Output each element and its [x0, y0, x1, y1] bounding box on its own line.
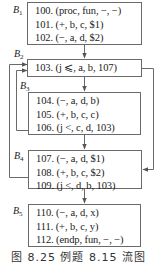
block-label-index: 1 — [19, 9, 23, 17]
quadruple-104: 104. (−, a, d, b) — [36, 94, 140, 108]
basic-block-b2: 103. (j ⩽, a, b, 107) — [27, 59, 142, 77]
block-label-index: 2 — [20, 53, 24, 61]
quadruple-106: 106. (j <, c, d, 103) — [36, 121, 140, 135]
quadruple-100: 100. (proc, fun, −, −) — [35, 4, 141, 18]
quadruple-108: 108. (+, b, c, $2) — [36, 166, 141, 180]
basic-block-b3: 104. (−, a, d, b) 105. (+, b, c, c) 106.… — [28, 92, 141, 135]
basic-block-b4: 107. (−, a, d, $1) 108. (+, b, c, $2) 10… — [28, 150, 142, 189]
quadruple-102: 102. (−, a, d, $2) — [35, 31, 141, 45]
quadruple-107: 107. (−, a, d, $1) — [36, 152, 141, 166]
basic-block-b1: 100. (proc, fun, −, −) 101. (+, b, c, $1… — [27, 2, 142, 45]
block-label-b5: B5 — [13, 206, 23, 219]
block-label-index: 4 — [20, 155, 24, 163]
quadruple-101: 101. (+, b, c, $1) — [35, 18, 141, 32]
block-label-b1: B1 — [13, 5, 23, 18]
edge-b2-b4-jump — [142, 69, 154, 170]
quadruple-109: 109. (j <, d, b, 103) — [36, 179, 141, 193]
quadruple-110: 110. (−, a, d, x) — [36, 206, 140, 220]
quadruple-111: 111. (+, b, c, y) — [36, 220, 140, 234]
basic-block-b5: 110. (−, a, d, x) 111. (+, b, c, y) 112.… — [28, 204, 141, 247]
quadruple-112: 112. (endp, fun, −, −) — [36, 233, 140, 247]
block-label-index: 5 — [19, 210, 23, 218]
figure-caption: 图 8.25 例题 8.15 流图 — [0, 248, 157, 264]
block-label-b4: B4 — [14, 151, 24, 164]
quadruple-103: 103. (j ⩽, a, b, 107) — [35, 61, 141, 75]
quadruple-105: 105. (+, b, c, c) — [36, 108, 140, 122]
block-label-b2: B2 — [14, 49, 24, 62]
